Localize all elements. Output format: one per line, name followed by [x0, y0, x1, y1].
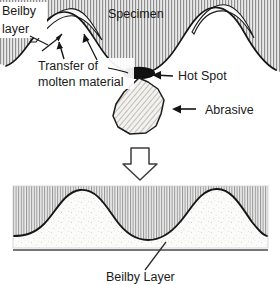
label-hot-spot: Hot Spot: [178, 69, 227, 83]
abrasive-wear-diagram: Beilby layer Specimen Transfer of molten…: [0, 0, 280, 285]
label-abrasive: Abrasive: [205, 103, 254, 117]
label-transfer-line2: molten material: [38, 75, 123, 89]
label-beilby-layer-line1: Beilby: [2, 4, 37, 18]
label-beilby-layer-line2: layer: [2, 22, 29, 36]
label-specimen: Specimen: [108, 7, 164, 21]
label-transfer-line1: Transfer of: [38, 59, 99, 73]
label-result-beilby-layer: Beilby Layer: [106, 270, 175, 284]
diagram-canvas: Beilby layer Specimen Transfer of molten…: [0, 0, 280, 285]
